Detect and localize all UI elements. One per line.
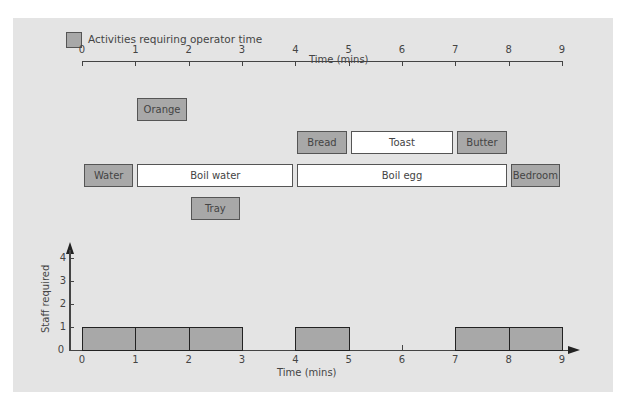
x-axis-tick-label: 0 — [72, 354, 92, 365]
x-axis-tick-label: 5 — [339, 354, 359, 365]
x-axis-tick-label: 4 — [285, 354, 305, 365]
x-axis-tick-label: 1 — [125, 354, 145, 365]
top-axis-tick-label: 1 — [125, 44, 145, 55]
x-axis-tick — [402, 345, 403, 350]
top-axis-tick-label: 7 — [445, 44, 465, 55]
y-axis-tick-label: 0 — [54, 344, 64, 355]
y-axis-tick — [69, 327, 74, 328]
top-axis-tick — [189, 61, 190, 66]
activity-bedroom: Bedroom — [511, 164, 560, 187]
top-axis-tick-label: 4 — [285, 44, 305, 55]
top-axis-tick — [135, 61, 136, 66]
top-axis-tick — [509, 61, 510, 66]
top-axis-tick-label: 2 — [179, 44, 199, 55]
activity-tray: Tray — [191, 197, 240, 220]
top-axis-tick — [455, 61, 456, 66]
top-axis-tick-label: 0 — [72, 44, 92, 55]
activity-bread: Bread — [297, 131, 346, 154]
top-axis-tick — [295, 61, 296, 66]
top-axis-title: Time (mins) — [309, 54, 369, 65]
top-axis-tick-label: 3 — [232, 44, 252, 55]
top-axis-tick — [562, 61, 563, 66]
y-axis-label: Staff required — [40, 265, 51, 333]
top-axis-line — [82, 61, 562, 62]
top-axis-tick — [349, 61, 350, 66]
top-axis-tick-label: 9 — [552, 44, 572, 55]
y-axis-tick — [69, 281, 74, 282]
activity-butter: Butter — [457, 131, 506, 154]
staff-bar — [135, 327, 189, 351]
y-axis-tick-label: 4 — [56, 252, 66, 263]
top-axis-tick — [402, 61, 403, 66]
staff-bar — [82, 327, 136, 351]
x-axis-tick-label: 7 — [445, 354, 465, 365]
top-axis-tick-label: 5 — [339, 44, 359, 55]
activity-boil-water: Boil water — [137, 164, 293, 187]
x-axis-label: Time (mins) — [277, 367, 337, 378]
x-axis-tick-label: 2 — [179, 354, 199, 365]
activity-water: Water — [84, 164, 133, 187]
x-axis-arrow-icon — [568, 346, 580, 354]
y-axis-tick-label: 1 — [56, 321, 66, 332]
staff-bar — [509, 327, 563, 351]
top-axis-tick — [82, 61, 83, 66]
top-axis-tick-label: 8 — [499, 44, 519, 55]
x-axis-tick-label: 3 — [232, 354, 252, 365]
staff-bar — [295, 327, 349, 351]
top-axis-tick — [242, 61, 243, 66]
y-axis-tick-label: 2 — [56, 298, 66, 309]
y-axis-tick-label: 3 — [56, 275, 66, 286]
staff-bar — [455, 327, 509, 351]
activity-toast: Toast — [351, 131, 454, 154]
top-axis-tick-label: 6 — [392, 44, 412, 55]
staff-bar — [189, 327, 243, 351]
x-axis-tick-label: 6 — [392, 354, 412, 365]
y-axis-line — [69, 250, 71, 350]
activity-boil-egg: Boil egg — [297, 164, 506, 187]
y-axis-tick — [69, 304, 74, 305]
x-axis-tick-label: 9 — [552, 354, 572, 365]
y-axis-tick — [69, 258, 74, 259]
x-axis-tick-label: 8 — [499, 354, 519, 365]
activity-orange: Orange — [137, 98, 186, 121]
